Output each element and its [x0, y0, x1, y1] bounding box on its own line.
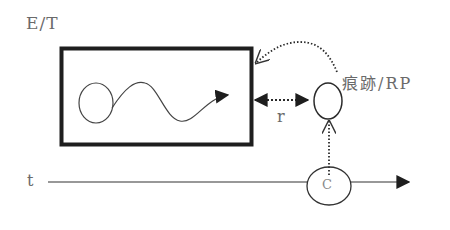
time-axis-label: t	[27, 171, 33, 190]
c-label: C	[322, 177, 332, 192]
diagram-svg	[0, 0, 450, 230]
et-label: E/T	[26, 13, 58, 33]
wavy-arrow	[112, 82, 228, 121]
diagram-canvas: E/T 痕跡/RP r t C	[0, 0, 450, 230]
r-label: r	[277, 107, 285, 126]
rp-feedback-arc	[256, 42, 337, 72]
rp-circle	[314, 83, 342, 119]
rp-label: 痕跡/RP	[342, 70, 412, 94]
loop-circle	[79, 83, 113, 123]
